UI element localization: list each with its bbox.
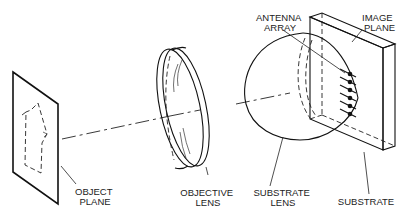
leader-substrate [364, 152, 369, 194]
label-substrate: SUBSTRATE [338, 196, 394, 207]
label-object-plane: OBJECT PLANE [75, 186, 115, 207]
substrate-lens [245, 33, 358, 140]
antenna-element [340, 93, 356, 101]
object-plane [13, 72, 58, 204]
label-antenna-array: ANTENNA ARRAY [256, 12, 304, 33]
antenna-element [340, 85, 356, 93]
leader-object-plane [61, 166, 76, 184]
objective-lens [148, 44, 218, 171]
optical-axis [62, 93, 290, 139]
label-substrate-lens: SUBSTRATE LENS [254, 187, 313, 208]
label-objective-lens: OBJECTIVE LENS [180, 187, 235, 208]
antenna-element [340, 101, 356, 109]
label-image-plane: IMAGE PLANE [362, 12, 395, 33]
leader-antenna-array [283, 30, 345, 73]
leader-substrate-lens [270, 137, 283, 186]
leader-objective-lens [206, 167, 208, 175]
substrate [310, 13, 395, 150]
optical-system-diagram: ANTENNA ARRAY IMAGE PLANE OBJECT PLANE O… [0, 0, 403, 218]
antenna-element [340, 69, 356, 77]
leader-lines [61, 30, 369, 194]
